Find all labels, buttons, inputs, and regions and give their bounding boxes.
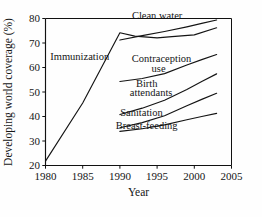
x-tick-label-1980: 1980: [35, 170, 58, 182]
series-label-attendants: attendants: [130, 87, 173, 98]
x-axis-title: Year: [128, 186, 149, 198]
series-label-use: use: [152, 63, 166, 74]
line-chart: 20304050607080198019851990199520002005 C…: [0, 0, 262, 217]
y-tick-label-50: 50: [29, 86, 41, 98]
series-label-immunization: Immunization: [50, 51, 110, 62]
series-label-sanitation: Sanitation: [120, 107, 163, 118]
x-tick-label-1985: 1985: [72, 170, 95, 182]
y-tick-label-60: 60: [29, 61, 41, 73]
y-tick-label-40: 40: [29, 110, 41, 122]
y-tick-label-30: 30: [29, 135, 41, 147]
series-label-clean-water: Clean water: [132, 10, 183, 21]
y-tick-label-80: 80: [29, 12, 41, 24]
x-tick-label-1995: 1995: [146, 170, 169, 182]
chart-figure: 20304050607080198019851990199520002005 C…: [0, 0, 262, 217]
y-axis-title: Developing world coverage (%): [2, 18, 15, 166]
y-tick-label-70: 70: [29, 37, 41, 49]
x-tick-label-1990: 1990: [109, 170, 132, 182]
x-tick-label-2005: 2005: [221, 170, 244, 182]
series-label-breast-feeding: Breast-feeding: [116, 120, 179, 131]
x-tick-label-2000: 2000: [183, 170, 206, 182]
